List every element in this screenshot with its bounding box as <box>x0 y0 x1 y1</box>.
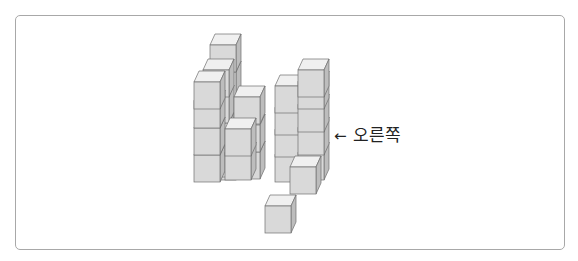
single-cube <box>265 195 296 233</box>
left-structure <box>194 34 265 182</box>
direction-label: ←오른쪽 <box>334 121 401 146</box>
right-structure <box>275 59 329 194</box>
cube-diagram <box>0 0 578 261</box>
left-arrow-icon: ← <box>334 127 347 145</box>
direction-text: 오른쪽 <box>353 125 401 145</box>
